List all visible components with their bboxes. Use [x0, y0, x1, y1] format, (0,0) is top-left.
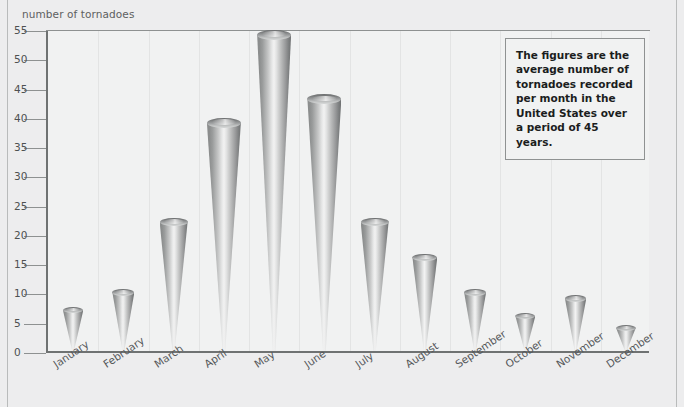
cone-bar [307, 99, 341, 351]
y-axis-tick-label: 0 [14, 346, 40, 358]
cone-cap-highlight [115, 290, 131, 294]
cone-cap-highlight [164, 219, 184, 224]
cone-body [257, 35, 291, 351]
annotation-box: The figures are the average number of to… [505, 38, 645, 160]
y-axis-tick-label: 40 [14, 112, 40, 124]
y-axis-tick-label: 50 [14, 53, 40, 65]
y-axis-tick-label: 45 [14, 83, 40, 95]
cone-body [412, 257, 437, 351]
y-axis-tick-label: 15 [14, 258, 40, 270]
cone-body [160, 222, 188, 351]
cone-cap-highlight [518, 314, 532, 317]
y-axis-title: number of tornadoes [22, 8, 134, 20]
cone-cap-highlight [619, 326, 633, 329]
cone-bar [361, 222, 389, 351]
y-axis-tick-label: 10 [14, 287, 40, 299]
cone-bar [257, 35, 291, 351]
frame-right-rule [676, 0, 677, 407]
cone-body [307, 99, 341, 351]
y-axis-tick-label: 5 [14, 317, 40, 329]
frame-left-rule [7, 0, 8, 407]
cone-body [361, 222, 389, 351]
cone-bar [160, 222, 188, 351]
y-axis-tick-label: 20 [14, 229, 40, 241]
y-axis-tick-label: 25 [14, 200, 40, 212]
cone-bar [207, 123, 241, 351]
cone-bar [412, 257, 437, 351]
chart-root: number of tornadoes 05101520253035404550… [0, 0, 684, 407]
y-axis-tick-label: 55 [14, 24, 40, 36]
cone-cap-highlight [365, 219, 385, 224]
cone-cap-highlight [416, 255, 434, 259]
y-axis-tick-label: 35 [14, 141, 40, 153]
cone-cap-highlight [568, 296, 583, 300]
cone-cap-highlight [467, 290, 483, 294]
cone-body [207, 123, 241, 351]
y-axis-tick-label: 30 [14, 170, 40, 182]
cone-cap-highlight [212, 119, 236, 125]
